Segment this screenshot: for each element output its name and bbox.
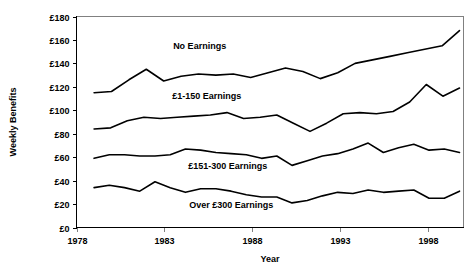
series-label-mid-earnings: £151-300 Earnings: [188, 161, 267, 171]
series-line: [94, 84, 459, 131]
y-tick-label: £100: [49, 106, 69, 116]
series-line: [94, 143, 459, 165]
series-label-low-earnings: £1-150 Earnings: [172, 91, 241, 101]
y-tick-label: £120: [49, 83, 69, 93]
x-tick-label: 1993: [330, 236, 350, 246]
data-series-group: [94, 31, 459, 203]
y-tick-label: £160: [49, 36, 69, 46]
series-line: [94, 182, 459, 203]
y-axis-title: Weekly Benefits: [8, 88, 18, 157]
y-tick-label: £140: [49, 59, 69, 69]
y-tick-label: £180: [49, 13, 69, 23]
x-tick-label: 1988: [242, 236, 262, 246]
series-inline-labels: No Earnings£1-150 Earnings£151-300 Earni…: [172, 41, 273, 209]
series-line: [94, 31, 459, 93]
line-chart: £0£20£40£60£80£100£120£140£160£180 19781…: [0, 0, 473, 277]
y-tick-label: £0: [59, 224, 69, 234]
series-label-high-earnings: Over £300 Earnings: [189, 200, 273, 210]
series-label-no-earnings: No Earnings: [173, 41, 226, 51]
x-tick-label: 1978: [67, 236, 87, 246]
x-axis-title: Year: [260, 254, 280, 264]
x-axis-ticks: 19781983198819931998: [67, 228, 438, 246]
x-tick-label: 1998: [418, 236, 438, 246]
chart-figure: £0£20£40£60£80£100£120£140£160£180 19781…: [0, 0, 473, 277]
x-tick-label: 1983: [154, 236, 174, 246]
y-axis-ticks: £0£20£40£60£80£100£120£140£160£180: [49, 13, 76, 234]
y-tick-label: £80: [54, 130, 69, 140]
plot-area-frame: [77, 17, 464, 228]
y-tick-label: £40: [54, 177, 69, 187]
y-tick-label: £60: [54, 153, 69, 163]
y-tick-label: £20: [54, 200, 69, 210]
